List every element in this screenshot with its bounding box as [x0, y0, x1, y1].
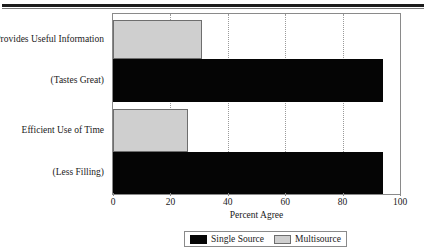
bar-multisource — [113, 20, 202, 59]
plot-area — [113, 14, 400, 194]
x-tick-label: 0 — [111, 196, 116, 208]
legend-label: Multisource — [295, 234, 341, 244]
legend-label: Single Source — [211, 234, 264, 244]
category-axis-labels: Provides Useful Information(Tastes Great… — [0, 13, 108, 195]
legend-swatch-icon — [274, 235, 291, 244]
x-tick-label: 40 — [223, 196, 233, 208]
x-tick-label: 60 — [280, 196, 290, 208]
legend-item[interactable]: Single Source — [190, 234, 264, 244]
x-axis-ticks: 020406080100 — [113, 196, 400, 210]
chart-figure: Provides Useful Information(Tastes Great… — [0, 0, 426, 250]
header-rule-thin — [2, 8, 424, 9]
legend-swatch-icon — [190, 235, 207, 244]
chart-legend: Single SourceMultisource — [184, 231, 347, 247]
category-label: (Less Filling) — [53, 167, 104, 178]
category-label: Efficient Use of Time — [22, 125, 104, 136]
bar-single-source — [113, 59, 383, 102]
x-tick-label: 20 — [166, 196, 176, 208]
bar-multisource — [113, 109, 188, 152]
header-rule — [2, 4, 424, 7]
category-label: Provides Useful Information — [0, 34, 104, 45]
bar-single-source — [113, 152, 383, 194]
legend-item[interactable]: Multisource — [274, 234, 341, 244]
x-axis-title: Percent Agree — [113, 210, 400, 220]
x-tick-label: 100 — [393, 196, 407, 208]
x-tick-label: 80 — [338, 196, 348, 208]
category-label: (Tastes Great) — [51, 75, 104, 86]
